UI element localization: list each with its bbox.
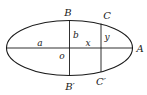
label-B: B <box>63 7 71 18</box>
label-B-prime: B′ <box>64 81 75 92</box>
label-a: a <box>37 38 42 48</box>
label-C: C <box>103 10 111 21</box>
label-b: b <box>73 30 79 40</box>
ellipse-figure: B C A b y a x o B′ C′ <box>0 0 147 95</box>
label-A: A <box>135 43 143 54</box>
label-x: x <box>85 38 90 48</box>
ellipse-diagram: B C A b y a x o B′ C′ <box>0 0 147 95</box>
label-y: y <box>103 32 110 42</box>
label-C-prime: C′ <box>96 76 107 87</box>
label-o: o <box>59 51 65 61</box>
